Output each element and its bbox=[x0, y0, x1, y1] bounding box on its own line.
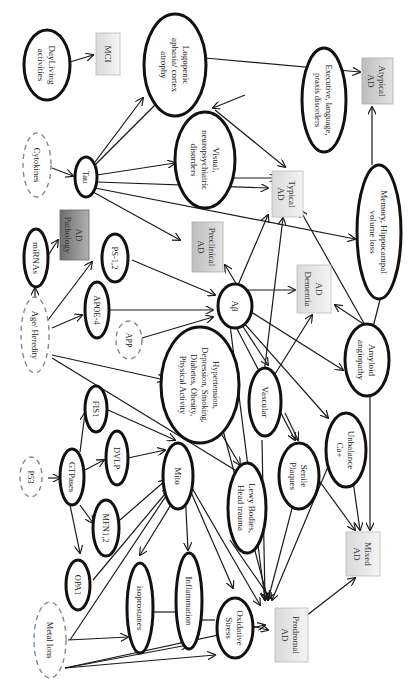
svg-text:FIS1: FIS1 bbox=[91, 401, 101, 418]
node-mfn12: MFN1,2 bbox=[93, 500, 119, 556]
edge-tau-preclinical bbox=[93, 192, 180, 240]
node-dvlp: DVLP bbox=[106, 431, 128, 485]
svg-text:PS-1,2: PS-1,2 bbox=[110, 247, 120, 270]
svg-text:praxis disorders: praxis disorders bbox=[313, 73, 323, 127]
svg-text:Head trauma: Head trauma bbox=[236, 485, 246, 531]
svg-text:AD: AD bbox=[366, 75, 376, 88]
edge-tau-logopenic bbox=[95, 98, 143, 162]
svg-text:Aβ: Aβ bbox=[230, 300, 240, 311]
svg-text:Dementia: Dementia bbox=[303, 272, 313, 307]
svg-text:Amyloid: Amyloid bbox=[367, 344, 377, 377]
svg-text:APOE-4: APOE-4 bbox=[92, 295, 102, 325]
edge-abeta-preclinical bbox=[225, 265, 237, 285]
node-app: APP bbox=[116, 321, 142, 359]
svg-text:P53: P53 bbox=[26, 470, 36, 483]
node-daily-living: DayLiving activities bbox=[24, 30, 70, 100]
edge-gtpases-dvlp bbox=[85, 460, 104, 470]
svg-text:Visual,: Visual, bbox=[211, 147, 221, 172]
edge-vascular-senile bbox=[285, 413, 298, 440]
svg-text:GTPases: GTPases bbox=[67, 462, 77, 492]
edge-mfn12-mito bbox=[120, 480, 166, 520]
node-mito: Mito bbox=[163, 443, 193, 509]
svg-text:Pathology: Pathology bbox=[63, 217, 73, 254]
edge-daily-mci bbox=[70, 55, 93, 62]
node-apoe4: APOE-4 bbox=[85, 282, 109, 338]
svg-text:isoprostanes: isoprostanes bbox=[135, 586, 145, 631]
edge-amyloid-memory bbox=[373, 300, 380, 327]
node-prodromal-ad: Prodromal AD bbox=[275, 608, 308, 662]
edge-age-hypertension bbox=[52, 355, 165, 380]
node-senile-plaques: Senile Plaques bbox=[279, 443, 319, 509]
node-typical-ad: Typical AD bbox=[272, 171, 303, 217]
node-metal-ions: Metal Ions bbox=[34, 602, 66, 678]
node-lewy-bodies: Lewy Bodies, Head trauma bbox=[228, 463, 266, 553]
svg-text:AD: AD bbox=[280, 629, 290, 642]
svg-text:Unbalance: Unbalance bbox=[346, 431, 356, 469]
svg-text:Preclinical: Preclinical bbox=[207, 228, 217, 267]
svg-text:Prodromal: Prodromal bbox=[291, 616, 301, 654]
svg-text:Diabetes, Obesity,: Diabetes, Obesity, bbox=[189, 354, 199, 416]
svg-text:Cytokines: Cytokines bbox=[32, 148, 42, 182]
node-vascular: Vascular bbox=[249, 368, 281, 436]
edge-abeta-typical bbox=[238, 215, 268, 285]
svg-text:OPA1: OPA1 bbox=[73, 575, 83, 595]
svg-text:AD: AD bbox=[314, 283, 324, 296]
edge-tau-visual bbox=[97, 163, 175, 175]
svg-text:APP: APP bbox=[124, 333, 133, 348]
svg-text:miRNAs: miRNAs bbox=[31, 242, 41, 275]
svg-text:disorders: disorders bbox=[189, 144, 199, 177]
svg-text:neuropsychiatric: neuropsychiatric bbox=[200, 130, 210, 190]
svg-text:aphasia/ cortex: aphasia/ cortex bbox=[170, 38, 180, 93]
svg-text:Logopenic: Logopenic bbox=[181, 46, 191, 85]
edge-abeta-amyloid bbox=[248, 310, 343, 370]
svg-text:DVLP: DVLP bbox=[112, 447, 122, 469]
edge-cytokines-tau bbox=[52, 168, 73, 176]
svg-text:activities: activities bbox=[36, 49, 46, 82]
svg-text:Depression, Smoking,: Depression, Smoking, bbox=[200, 347, 210, 422]
svg-text:AD: AD bbox=[352, 548, 362, 561]
node-ps12: PS-1,2 bbox=[102, 234, 128, 282]
svg-text:Executive, language,: Executive, language, bbox=[324, 64, 334, 135]
svg-text:Metal Ions: Metal Ions bbox=[45, 622, 55, 659]
edge-dvlp-mito bbox=[128, 450, 165, 458]
node-gtpases: GTPases bbox=[60, 449, 84, 505]
node-visual: Visual, neuropsychiatric disorders bbox=[175, 112, 235, 208]
edge-gtpases-mfn12 bbox=[80, 505, 93, 523]
node-abeta: Aβ bbox=[218, 284, 252, 328]
svg-text:Memory, Hippocampal: Memory, Hippocampal bbox=[379, 190, 389, 274]
svg-text:Plaques: Plaques bbox=[288, 462, 298, 490]
svg-text:Age/ Heredity: Age/ Heredity bbox=[30, 311, 40, 360]
node-opa1: OPA1 bbox=[66, 560, 90, 610]
svg-text:Physical Activity: Physical Activity bbox=[178, 356, 188, 415]
svg-text:atrophy: atrophy bbox=[159, 51, 169, 79]
svg-text:Oxidative: Oxidative bbox=[235, 610, 245, 646]
node-ad-pathology: AD Pathology bbox=[60, 210, 89, 260]
node-mixed-ad: Mixed AD bbox=[346, 532, 380, 576]
node-unbalance-ca: Unbalance Ca+ bbox=[326, 413, 366, 487]
svg-text:MCI: MCI bbox=[103, 45, 113, 62]
svg-text:Hypertension,: Hypertension, bbox=[211, 361, 221, 409]
node-oxidative-stress: Oxidative Stress bbox=[217, 598, 253, 658]
node-mci: MCI bbox=[96, 33, 120, 75]
svg-text:Ca+: Ca+ bbox=[335, 442, 345, 457]
edge-age-apoe4 bbox=[52, 315, 82, 328]
edge-amyloid-dementia bbox=[335, 305, 365, 325]
node-executive: Executive, language, praxis disorders bbox=[302, 48, 346, 152]
nodes: DayLiving activities MCI Logopenic aphas… bbox=[20, 14, 401, 678]
svg-text:Typical: Typical bbox=[287, 181, 297, 208]
svg-text:Mito: Mito bbox=[173, 467, 183, 485]
svg-text:angiopathy: angiopathy bbox=[356, 340, 366, 380]
node-inflammation: Inflammation bbox=[176, 553, 202, 649]
edge-metal-oxidative bbox=[65, 655, 215, 668]
svg-text:Mixed: Mixed bbox=[363, 542, 373, 566]
node-isoprostanes: isoprostanes bbox=[127, 563, 153, 653]
node-logopenic: Logopenic aphasia/ cortex atrophy bbox=[144, 14, 206, 116]
svg-text:Senile: Senile bbox=[299, 465, 309, 488]
node-ad-dementia: AD Dementia bbox=[297, 265, 331, 313]
svg-text:AD: AD bbox=[196, 241, 206, 254]
node-fis1: FIS1 bbox=[85, 386, 107, 432]
ad-pathway-diagram: DayLiving activities MCI Logopenic aphas… bbox=[0, 0, 409, 700]
svg-text:AD: AD bbox=[74, 229, 84, 242]
node-amyloid-angiopathy: Amyloid angiopathy bbox=[345, 324, 389, 396]
svg-text:Vascular: Vascular bbox=[260, 387, 270, 418]
